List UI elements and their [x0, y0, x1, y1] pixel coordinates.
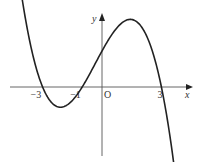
x-axis-label: x: [184, 89, 190, 100]
cubic-graph: x y O −3−13: [0, 0, 202, 162]
cubic-curve: [17, 0, 183, 162]
origin-label: O: [104, 89, 111, 100]
y-axis-arrow-icon: [99, 13, 105, 21]
x-tick-label: −3: [31, 89, 42, 100]
y-axis-label: y: [91, 13, 97, 24]
